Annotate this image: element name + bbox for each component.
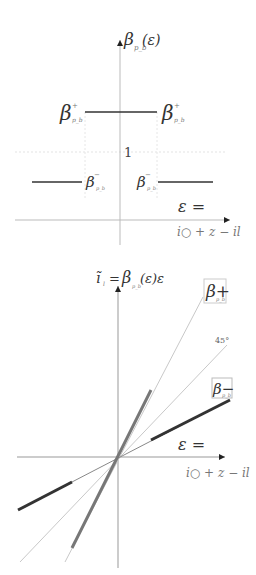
y-axis-label-lhs-sub: l [103,280,105,287]
x-axis-label-top: ε = [178,197,205,216]
y-axis-label: β [123,29,134,49]
y-axis-label-arg: (ε)ε [140,271,164,286]
characteristic-upper-right-segment [151,400,230,440]
beta-minus-sub-right: p_b [147,185,156,192]
y-axis-label-lhs: ĩ [96,270,102,286]
y-axis-label-eq: = [109,271,120,286]
x-axis-label-top: ε = [178,435,205,454]
beta-minus-sup-left: − [94,171,100,179]
unity-label: 1 [124,145,132,160]
beta-minus-sub-left: p_b [96,185,105,192]
beta-plus-sub-right: p_b [174,116,185,124]
beta-minus-box-sub: p_b [222,392,231,399]
top-chart: β p_b (ε) β + p_b β + p_b 1 β − p_b β − … [15,29,241,245]
diagram-canvas: β p_b (ε) β + p_b β + p_b 1 β − p_b β − … [0,0,256,575]
beta-plus-label-left: β [59,101,72,125]
beta-minus-sup-right: − [145,171,151,179]
x-axis-label-bottom: i○ + z − il [186,466,250,480]
beta-plus-sup-right: + [174,102,180,110]
y-axis-label-arg: (ε) [142,32,160,48]
deg45-label: 45° [215,336,229,345]
beta-plus-label-right: β [161,101,174,125]
x-axis-label-bottom: i○ + z − il [177,225,241,239]
characteristic-steep-segment [72,390,151,548]
characteristic-lower-left-segment [18,482,72,510]
y-axis-label-beta: β [121,268,131,287]
beta-plus-box-sub: p_b [216,296,225,303]
bottom-chart: ĩ l = β p_b (ε)ε β+ p_b 45° β− p_b ε = i… [17,268,250,568]
beta-plus-sub-left: p_b [72,116,83,124]
beta-plus-sup-left: + [72,102,78,110]
